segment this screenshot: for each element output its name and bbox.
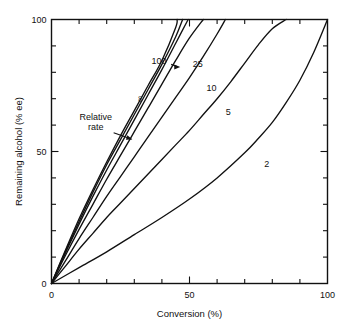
tick-marks (52, 20, 328, 284)
figure-container: 050100050100 ∞100251052 Relativerate Con… (0, 0, 349, 329)
chart-canvas: 050100050100 ∞100251052 Relativerate Con… (0, 0, 349, 329)
plot-frame (52, 20, 328, 284)
curve-5 (52, 20, 287, 284)
curve-2 (52, 20, 328, 284)
y-tick-label: 0 (41, 279, 46, 289)
rate-100-arrowhead (174, 65, 180, 70)
curve-label-25: 25 (193, 59, 203, 69)
data-curves (52, 20, 328, 284)
y-axis-title: Remaining alcohol (% ee) (13, 97, 24, 206)
curve-label-infinity: ∞ (135, 95, 145, 101)
axis-box (52, 20, 328, 284)
y-tick-label: 50 (36, 147, 46, 157)
curve-label-10: 10 (207, 83, 217, 93)
curve-label-100: 100 (152, 56, 167, 66)
tick-labels: 050100050100 (31, 15, 335, 300)
curve-label-2: 2 (264, 159, 269, 169)
x-tick-label: 100 (320, 290, 335, 300)
y-tick-label: 100 (31, 15, 46, 25)
relative-rate-label-line1: Relative (79, 112, 112, 122)
curve-25 (52, 20, 204, 284)
chart-annotations: Relativerate (79, 64, 180, 141)
curve-label-5: 5 (226, 107, 231, 117)
x-axis-title: Conversion (%) (157, 308, 222, 319)
x-tick-label: 0 (49, 290, 54, 300)
relative-rate-label-line2: rate (88, 122, 104, 132)
x-tick-label: 50 (184, 290, 194, 300)
